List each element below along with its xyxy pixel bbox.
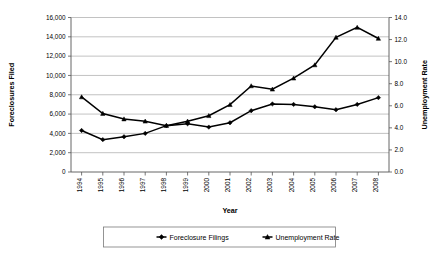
x-axis-tick-label: 1996 [118,178,125,193]
x-axis-tick-label: 1995 [97,178,104,193]
y2-axis-tick-label: 6.0 [395,102,404,109]
legend-label-unemployment-rate: Unemployment Rate [276,234,340,242]
x-axis-tick-label: 2002 [245,178,252,193]
data-point-marker [376,95,380,99]
y-axis-title: Foreclosures Filed [7,63,16,127]
y-axis-tick-label: 2,000 [50,149,66,156]
y-axis-tick-label: 0 [62,168,66,175]
x-axis-tick-label: 2006 [330,178,337,193]
y2-axis-title: Unemployment Rate [420,60,429,130]
y-axis-tick-label: 14,000 [46,33,66,40]
data-point-marker [143,131,147,135]
data-point-marker [79,95,83,99]
y2-axis-tick-label: 0.0 [395,168,404,175]
x-axis-tick-label: 1997 [139,178,146,193]
x-axis-tick-label: 2007 [351,178,358,193]
data-point-marker [355,102,359,106]
y-axis-tick-label: 6,000 [50,110,66,117]
y2-axis-tick-label: 2.0 [395,146,404,153]
y2-axis-tick-label: 12.0 [395,36,408,43]
y2-axis-tick-label: 14.0 [395,14,408,21]
data-point-marker [79,128,83,132]
x-axis-tick-label: 1994 [76,178,83,193]
x-axis-tick-label: 2004 [288,178,295,193]
y-axis-tick-label: 12,000 [46,52,66,59]
x-axis-tick-label: 2003 [266,178,273,193]
data-point-marker [313,105,317,109]
x-axis-tick-label: 2001 [224,178,231,193]
data-point-marker [291,102,295,106]
data-point-marker [207,125,211,129]
series-line-unemployment-rate [82,27,379,125]
x-axis-title: Year [222,206,237,215]
x-axis-tick-label: 1998 [160,178,167,193]
data-point-marker [101,137,105,141]
data-point-marker [270,102,274,106]
x-axis-tick-label: 2000 [203,178,210,193]
legend-label-foreclosure-filings: Foreclosure Filings [170,234,230,242]
x-axis-tick-label: 2008 [372,178,379,193]
data-point-marker [334,108,338,112]
foreclosure-unemployment-chart: 02,0004,0006,0008,00010,00012,00014,0001… [0,0,439,258]
y-axis-tick-label: 8,000 [50,91,66,98]
x-axis-tick-label: 1999 [182,178,189,193]
x-axis-tick-label: 2005 [309,178,316,193]
y2-axis-tick-label: 10.0 [395,58,408,65]
y-axis-tick-label: 16,000 [46,14,66,21]
y-axis-tick-label: 10,000 [46,72,66,79]
y2-axis-tick-label: 8.0 [395,80,404,87]
y2-axis-tick-label: 4.0 [395,124,404,131]
chart-canvas: 02,0004,0006,0008,00010,00012,00014,0001… [0,0,439,258]
data-point-marker [355,25,359,29]
y-axis-tick-label: 4,000 [50,130,66,137]
data-point-marker [122,135,126,139]
